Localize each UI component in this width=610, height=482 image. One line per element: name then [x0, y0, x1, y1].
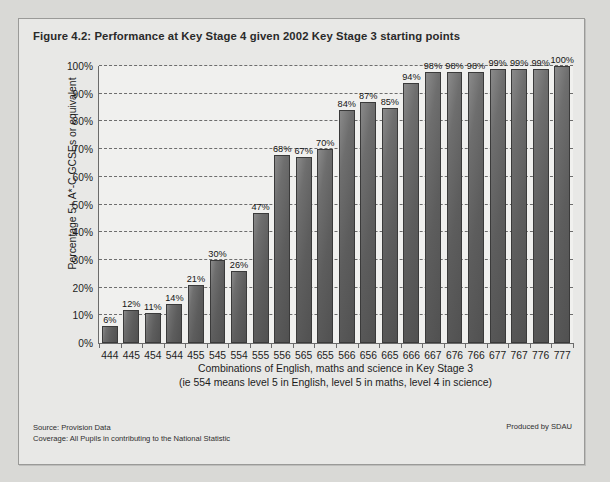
- bar-value-label: 94%: [402, 72, 420, 82]
- x-axis-category-label: 545: [209, 350, 226, 361]
- x-axis-tick: [314, 343, 315, 348]
- bar[interactable]: [403, 83, 419, 343]
- bar-slot: 85%: [379, 66, 401, 343]
- y-axis-tick-label: 20%: [73, 282, 93, 293]
- y-axis-tick-label: 40%: [73, 227, 93, 238]
- chart-area: Percentage 5+ A*-C GCSEs or equivalent 0…: [33, 58, 573, 403]
- bar[interactable]: [123, 310, 139, 343]
- bar[interactable]: [145, 313, 161, 343]
- bar-value-label: 70%: [316, 138, 334, 148]
- y-axis-tick-label: 100%: [67, 61, 93, 72]
- bar[interactable]: [382, 108, 398, 343]
- bar[interactable]: [425, 72, 441, 343]
- x-axis-tick: [250, 343, 251, 348]
- coverage-line: Coverage: All Pupils in contributing to …: [33, 433, 230, 444]
- bar[interactable]: [490, 69, 506, 343]
- x-axis-category-label: 666: [403, 350, 420, 361]
- x-axis-category-label: 776: [532, 350, 549, 361]
- bar-slot: 70%: [314, 66, 336, 343]
- produced-by-line: Produced by SDAU: [506, 422, 572, 431]
- bar-slot: 98%: [465, 66, 487, 343]
- bar-value-label: 98%: [467, 61, 485, 71]
- bar-slot: 99%: [508, 66, 530, 343]
- bar[interactable]: [339, 110, 355, 343]
- x-axis-tick: [336, 343, 337, 348]
- bar-slot: 94%: [401, 66, 423, 343]
- x-axis-category-label: 656: [360, 350, 377, 361]
- x-axis-tick: [293, 343, 294, 348]
- bar-value-label: 12%: [122, 299, 140, 309]
- x-axis-tick: [121, 343, 122, 348]
- bar-value-label: 30%: [208, 249, 226, 259]
- x-axis-tick: [487, 343, 488, 348]
- x-axis-tick: [508, 343, 509, 348]
- y-axis-tick-label: 70%: [73, 144, 93, 155]
- bar-slot: 30%: [207, 66, 229, 343]
- bar[interactable]: [533, 69, 549, 343]
- bar-slot: 14%: [164, 66, 186, 343]
- x-axis-category-label: 655: [317, 350, 334, 361]
- y-axis-tick-label: 50%: [73, 199, 93, 210]
- x-axis-category-label: 455: [187, 350, 204, 361]
- bar-value-label: 98%: [445, 61, 463, 71]
- bar[interactable]: [253, 213, 269, 343]
- bar[interactable]: [296, 157, 312, 343]
- bar-slot: 67%: [293, 66, 315, 343]
- bar-slot: 98%: [444, 66, 466, 343]
- x-axis-category-label: 676: [446, 350, 463, 361]
- x-axis-tick: [465, 343, 466, 348]
- x-axis-tick: [164, 343, 165, 348]
- x-axis-category-label: 766: [467, 350, 484, 361]
- bar[interactable]: [554, 66, 570, 343]
- bar-value-label: 99%: [510, 58, 528, 68]
- footer-left: Source: Provision Data Coverage: All Pup…: [33, 422, 230, 444]
- bar-value-label: 47%: [251, 202, 269, 212]
- x-axis-category-label: 556: [274, 350, 291, 361]
- bar[interactable]: [511, 69, 527, 343]
- bar-value-label: 67%: [294, 146, 312, 156]
- figure-footer: Source: Provision Data Coverage: All Pup…: [33, 422, 572, 448]
- bar-value-label: 11%: [144, 302, 162, 312]
- bar-value-label: 87%: [359, 91, 377, 101]
- y-axis-tick-label: 80%: [73, 116, 93, 127]
- bar[interactable]: [188, 285, 204, 343]
- bar-value-label: 100%: [550, 55, 574, 65]
- x-axis-tick: [422, 343, 423, 348]
- bar-value-label: 99%: [488, 58, 506, 68]
- bar-value-label: 84%: [338, 99, 356, 109]
- bar[interactable]: [102, 326, 118, 343]
- x-axis-tick: [379, 343, 380, 348]
- bar-slot: 99%: [530, 66, 552, 343]
- bar-value-label: 99%: [531, 58, 549, 68]
- bar-slot: 87%: [358, 66, 380, 343]
- y-axis-tick-label: 30%: [73, 254, 93, 265]
- bar-slot: 47%: [250, 66, 272, 343]
- source-line: Source: Provision Data: [33, 422, 230, 433]
- x-axis-category-label: 677: [489, 350, 506, 361]
- x-axis-category-label: 544: [166, 350, 183, 361]
- bar[interactable]: [447, 72, 463, 343]
- y-axis-tick-label: 10%: [73, 310, 93, 321]
- y-axis-tick-label: 90%: [73, 88, 93, 99]
- bar[interactable]: [317, 149, 333, 343]
- x-axis-category-label: 445: [123, 350, 140, 361]
- bar[interactable]: [210, 260, 226, 343]
- bar-slot: 6%: [99, 66, 121, 343]
- bar[interactable]: [468, 72, 484, 343]
- plot-area: 0%10%20%30%40%50%60%70%80%90%100% 6%12%1…: [98, 66, 573, 344]
- bar-slot: 84%: [336, 66, 358, 343]
- x-axis-tick: [99, 343, 100, 348]
- page-title: Figure 4.2: Performance at Key Stage 4 g…: [33, 30, 460, 42]
- bar[interactable]: [166, 304, 182, 343]
- bar[interactable]: [274, 155, 290, 343]
- x-axis-category-label: 555: [252, 350, 269, 361]
- x-axis-tick: [573, 343, 574, 348]
- bar[interactable]: [360, 102, 376, 343]
- bar-value-label: 6%: [103, 315, 116, 325]
- bar-slot: 100%: [551, 66, 573, 343]
- x-axis-title: Combinations of English, maths and scien…: [98, 362, 573, 389]
- x-axis-tick: [185, 343, 186, 348]
- x-axis-tick: [401, 343, 402, 348]
- x-axis-category-label: 565: [295, 350, 312, 361]
- bar[interactable]: [231, 271, 247, 343]
